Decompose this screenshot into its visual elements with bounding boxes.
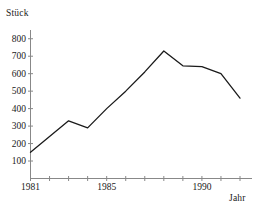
data-series-line	[31, 51, 241, 152]
axes	[28, 30, 252, 181]
plot-area	[0, 0, 259, 209]
line-chart: Stück Jahr 100200300400500600700800 1981…	[0, 0, 259, 209]
